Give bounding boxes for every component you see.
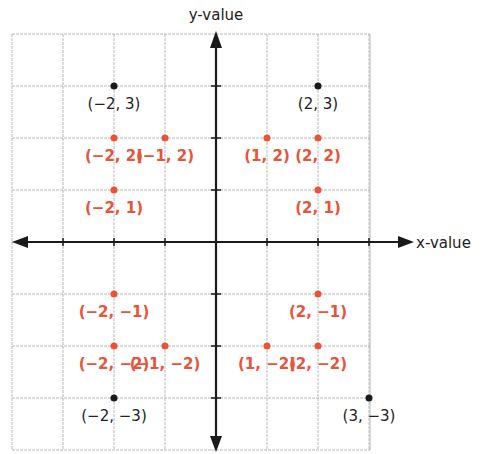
- point-label: (−2, −3): [81, 407, 146, 425]
- point-marker-icon: [111, 343, 118, 350]
- point-marker-icon: [162, 343, 169, 350]
- point-marker-icon: [111, 83, 118, 90]
- data-point: (1, −2): [238, 343, 296, 374]
- point-label: (−1, 2): [136, 147, 194, 165]
- data-point: (2, 3): [298, 83, 338, 114]
- point-marker-icon: [315, 135, 322, 142]
- point-marker-icon: [111, 291, 118, 298]
- data-point: (−1, 2): [136, 135, 194, 166]
- data-point: (2, 1): [295, 187, 341, 218]
- point-label: (1, 2): [244, 147, 290, 165]
- point-marker-icon: [315, 291, 322, 298]
- point-label: (−1, −2): [130, 355, 201, 373]
- data-point: (−2, −3): [81, 395, 146, 426]
- data-point: (−2, 1): [85, 187, 143, 218]
- axes: [12, 31, 414, 452]
- x-axis-right-arrow-icon: [398, 236, 414, 248]
- point-marker-icon: [315, 83, 322, 90]
- point-label: (2, 3): [298, 95, 338, 113]
- coordinate-plane: (−2, 2)(−1, 2)(1, 2)(2, 2)(−2, 1)(2, 1)(…: [0, 0, 491, 454]
- point-marker-icon: [315, 187, 322, 194]
- point-label: (2, 1): [295, 199, 341, 217]
- data-point: (2, 2): [295, 135, 341, 166]
- point-marker-icon: [264, 135, 271, 142]
- point-label: (3, −3): [343, 407, 396, 425]
- data-point: (2, −1): [289, 291, 347, 322]
- point-marker-icon: [111, 395, 118, 402]
- data-point: (−2, 3): [88, 83, 141, 114]
- point-marker-icon: [366, 395, 373, 402]
- x-axis-title: x-value: [416, 234, 471, 252]
- data-point: (−1, −2): [130, 343, 201, 374]
- point-label: (−2, 1): [85, 199, 143, 217]
- data-points: (−2, 2)(−1, 2)(1, 2)(2, 2)(−2, 1)(2, 1)(…: [79, 83, 396, 426]
- y-axis-title: y-value: [189, 6, 244, 24]
- point-label: (−2, 2): [85, 147, 143, 165]
- point-label: (2, −2): [289, 355, 347, 373]
- data-point: (−2, −1): [79, 291, 150, 322]
- data-point: (3, −3): [343, 395, 396, 426]
- point-marker-icon: [111, 187, 118, 194]
- point-label: (2, 2): [295, 147, 341, 165]
- x-axis-left-arrow-icon: [12, 236, 28, 248]
- data-point: (−2, 2): [85, 135, 143, 166]
- point-label: (−2, −1): [79, 303, 150, 321]
- point-label: (−2, 3): [88, 95, 141, 113]
- point-marker-icon: [162, 135, 169, 142]
- point-marker-icon: [264, 343, 271, 350]
- point-label: (2, −1): [289, 303, 347, 321]
- point-marker-icon: [111, 135, 118, 142]
- point-marker-icon: [315, 343, 322, 350]
- data-point: (1, 2): [244, 135, 290, 166]
- data-point: (2, −2): [289, 343, 347, 374]
- point-label: (1, −2): [238, 355, 296, 373]
